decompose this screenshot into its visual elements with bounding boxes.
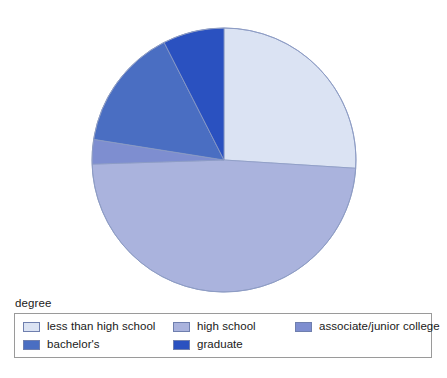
- legend-label-associate-junior-college: associate/junior college: [319, 320, 440, 333]
- pie-chart-figure: degree less than high school high school…: [0, 0, 447, 378]
- legend-label-high-school: high school: [197, 320, 256, 333]
- pie-plot-area: [0, 0, 447, 310]
- legend-swatch-icon-less-than-high-school: [23, 322, 40, 332]
- pie-slice[interactable]: [224, 28, 356, 168]
- legend-item-high-school[interactable]: high school: [173, 320, 295, 333]
- legend: degree less than high school high school…: [14, 296, 432, 358]
- pie-slice[interactable]: [92, 160, 356, 292]
- legend-item-less-than-high-school[interactable]: less than high school: [23, 320, 173, 333]
- legend-item-bachelors[interactable]: bachelor's: [23, 338, 173, 351]
- legend-items: less than high school high school associ…: [23, 320, 423, 351]
- legend-title: degree: [15, 296, 432, 310]
- legend-swatch-icon-bachelors: [23, 340, 40, 350]
- pie-slice-group: [92, 28, 356, 292]
- legend-label-graduate: graduate: [197, 338, 243, 351]
- legend-item-graduate[interactable]: graduate: [173, 338, 295, 351]
- legend-box: less than high school high school associ…: [14, 313, 432, 358]
- legend-swatch-icon-graduate: [173, 340, 190, 350]
- pie-svg: [0, 0, 447, 310]
- legend-swatch-icon-associate-junior-college: [295, 322, 312, 332]
- legend-swatch-icon-high-school: [173, 322, 190, 332]
- legend-label-bachelors: bachelor's: [47, 338, 100, 351]
- legend-item-associate-junior-college[interactable]: associate/junior college: [295, 320, 440, 333]
- legend-label-less-than-high-school: less than high school: [47, 320, 155, 333]
